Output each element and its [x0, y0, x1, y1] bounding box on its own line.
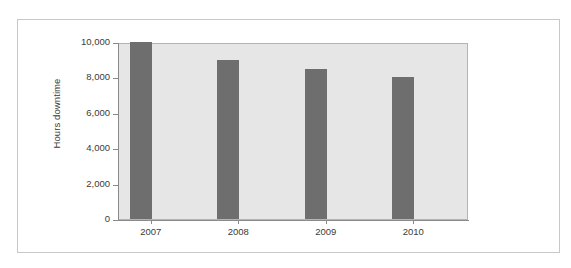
x-axis-tick-label: 2009	[296, 226, 356, 237]
y-axis-tick	[113, 185, 119, 186]
x-axis-tick-label: 2008	[208, 226, 268, 237]
y-axis-tick-label: 0	[48, 213, 110, 224]
x-axis-tick	[238, 220, 239, 224]
bar	[305, 69, 327, 219]
y-axis-line	[118, 43, 119, 221]
y-axis-tick	[113, 114, 119, 115]
bar	[130, 42, 152, 219]
y-axis-tick-label: 10,000	[48, 36, 110, 47]
y-axis-tick	[113, 43, 119, 44]
bar-chart: Hours downtime 02,0004,0006,0008,00010,0…	[18, 20, 561, 254]
x-axis-line	[118, 220, 469, 221]
y-axis-tick	[113, 220, 119, 221]
y-axis-tick-label: 4,000	[48, 142, 110, 153]
x-axis-tick-label: 2010	[383, 226, 443, 237]
x-axis-tick-label: 2007	[121, 226, 181, 237]
y-axis-tick	[113, 78, 119, 79]
bar	[217, 60, 239, 219]
plot-area	[118, 43, 468, 220]
x-axis-tick	[413, 220, 414, 224]
y-axis-tick-label: 6,000	[48, 107, 110, 118]
y-axis-tick	[113, 149, 119, 150]
y-axis-tick-label: 8,000	[48, 71, 110, 82]
figure-frame: Hours downtime 02,0004,0006,0008,00010,0…	[17, 19, 560, 253]
x-axis-tick	[151, 220, 152, 224]
y-axis-tick-labels: 02,0004,0006,0008,00010,000	[44, 20, 110, 254]
bar	[392, 77, 414, 219]
bars-layer	[119, 44, 467, 219]
x-axis-tick	[326, 220, 327, 224]
y-axis-tick-label: 2,000	[48, 178, 110, 189]
